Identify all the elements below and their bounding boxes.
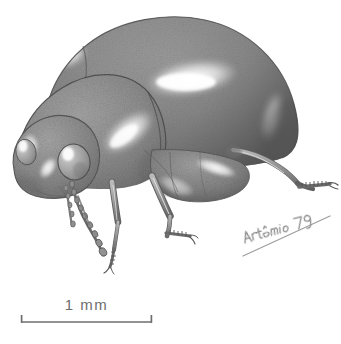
head <box>2 115 100 204</box>
scale-bar <box>21 315 152 323</box>
hindleg-tarsus <box>299 181 338 189</box>
antenna-near <box>70 181 109 258</box>
artist-signature <box>242 215 330 256</box>
midleg-tarsus <box>166 230 198 244</box>
scale-bar-label: 1 mm <box>21 296 152 313</box>
antennal-segments <box>70 181 109 258</box>
signature-underline <box>243 216 330 256</box>
eye-specular-highlight <box>62 147 74 161</box>
foreleg <box>104 182 118 274</box>
beetle-body <box>0 10 338 274</box>
beetle-illustration <box>0 0 341 344</box>
illustration-plate: 1 mm <box>0 0 341 344</box>
